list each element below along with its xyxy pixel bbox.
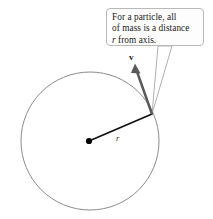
radius-label: r (116, 133, 119, 143)
callout-box: For a particle, all of mass is a distanc… (106, 8, 204, 46)
velocity-vector-arrowhead (131, 64, 141, 74)
callout-line-3-suffix: from axis. (116, 35, 157, 45)
callout-leader-line (152, 46, 172, 114)
velocity-label: v (129, 52, 134, 62)
physics-diagram: For a particle, all of mass is a distanc… (0, 0, 213, 219)
callout-line-1: For a particle, all (112, 12, 198, 23)
radius-line (89, 114, 152, 141)
center-dot (86, 138, 92, 144)
callout-line-2: of mass is a distance (112, 23, 198, 34)
callout-line-3: r from axis. (112, 35, 198, 46)
